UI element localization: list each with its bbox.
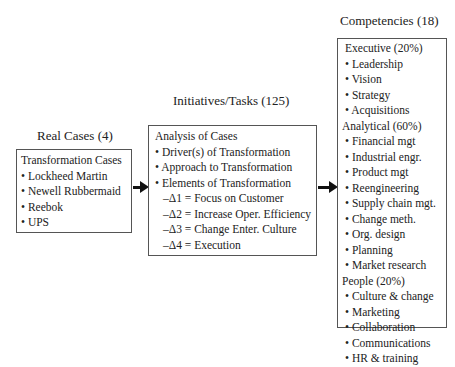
list-item: • Product mgt — [345, 165, 446, 181]
initiatives-box: Analysis of Cases • Driver(s) of Transfo… — [148, 125, 317, 256]
list-item: • Elements of Transformation — [155, 176, 316, 192]
list-item: • Approach to Transformation — [155, 160, 316, 176]
group-heading: Analytical (60%) — [342, 119, 446, 135]
list-item: • Industrial engr. — [345, 150, 446, 166]
list-item: • Change meth. — [345, 212, 446, 228]
box-heading: Analysis of Cases — [155, 129, 316, 145]
arrow-right-icon — [133, 186, 142, 189]
list-item: • Vision — [345, 72, 446, 88]
list-item: • Financial mgt — [345, 134, 446, 150]
arrow-right-icon — [318, 186, 331, 189]
competencies-title: Competencies (18) — [340, 13, 439, 29]
list-item: • UPS — [21, 215, 131, 231]
list-item: • Leadership — [345, 57, 446, 73]
sub-item: –Δ1 = Focus on Customer — [155, 191, 316, 207]
list-item: • Market research — [345, 258, 446, 274]
list-item: • HR & training — [345, 351, 446, 367]
initiatives-title: Initiatives/Tasks (125) — [173, 93, 289, 109]
list-item: • Collaboration — [345, 320, 446, 336]
list-item: • Org. design — [345, 227, 446, 243]
list-item: • Lockheed Martin — [21, 169, 131, 185]
group-heading: Executive (20%) — [345, 41, 446, 57]
list-item: • Culture & change — [345, 289, 446, 305]
competencies-box: Executive (20%) • Leadership • Vision • … — [337, 38, 447, 328]
list-item: • Reengineering — [345, 181, 446, 197]
list-item: • Supply chain mgt. — [345, 196, 446, 212]
list-item: • Driver(s) of Transformation — [155, 145, 316, 161]
real-cases-box: Transformation Cases • Lockheed Martin •… — [16, 149, 132, 233]
sub-item: –Δ3 = Change Enter. Culture — [155, 222, 316, 238]
list-item: • Communications — [345, 336, 446, 352]
list-item: • Strategy — [345, 88, 446, 104]
sub-item: –Δ4 = Execution — [155, 238, 316, 254]
list-item: • Acquisitions — [345, 103, 446, 119]
group-heading: People (20%) — [342, 274, 446, 290]
list-item: • Marketing — [345, 305, 446, 321]
list-item: • Planning — [345, 243, 446, 259]
real-cases-title: Real Cases (4) — [37, 128, 113, 144]
sub-item: –Δ2 = Increase Oper. Efficiency — [155, 207, 316, 223]
list-item: • Newell Rubbermaid — [21, 184, 131, 200]
box-heading: Transformation Cases — [21, 153, 131, 169]
list-item: • Reebok — [21, 200, 131, 216]
